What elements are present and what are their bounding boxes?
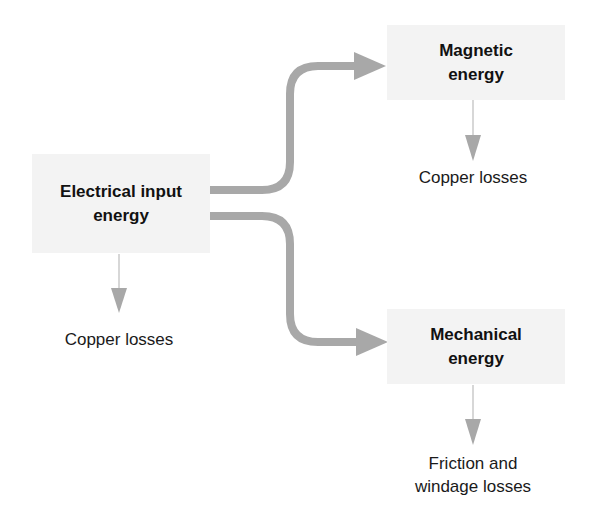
node-magnetic-energy: Magnetic energy	[387, 25, 565, 100]
node-label-line1: Electrical input	[60, 180, 182, 204]
node-label-line2: energy	[430, 347, 522, 371]
arrow-magnetic-to-copper-losses	[465, 100, 481, 161]
node-mechanical-energy: Mechanical energy	[387, 309, 565, 384]
loss-label-line2: windage losses	[373, 475, 573, 498]
loss-label-line1: Copper losses	[65, 330, 174, 349]
node-label-line2: energy	[60, 204, 182, 228]
node-label-line1: Magnetic	[439, 39, 513, 63]
node-label-line2: energy	[439, 63, 513, 87]
arrow-electrical-to-magnetic	[210, 52, 386, 190]
arrow-electrical-to-mechanical	[210, 216, 388, 356]
loss-label-line1: Friction and	[373, 452, 573, 475]
node-electrical-input-energy: Electrical input energy	[32, 154, 210, 253]
loss-magnetic-copper-losses: Copper losses	[373, 166, 573, 189]
energy-flow-diagram: Electrical input energy Magnetic energy …	[0, 0, 594, 528]
arrow-mechanical-to-friction-losses	[465, 385, 481, 445]
arrow-electrical-to-copper-losses	[111, 254, 127, 313]
node-label-line1: Mechanical	[430, 323, 522, 347]
loss-label-line1: Copper losses	[419, 168, 528, 187]
loss-electrical-copper-losses: Copper losses	[19, 328, 219, 351]
loss-mechanical-friction-windage: Friction and windage losses	[373, 452, 573, 498]
